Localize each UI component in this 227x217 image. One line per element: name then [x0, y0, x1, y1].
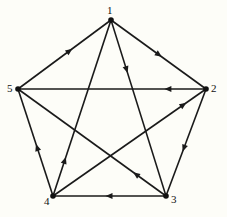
- node-4: [50, 193, 56, 199]
- edge-4-to-1: [53, 20, 111, 196]
- arrowhead-icon: [164, 86, 171, 92]
- node-2: [203, 86, 209, 92]
- arrowhead-icon: [180, 144, 188, 153]
- edge-2-to-3: [166, 89, 206, 196]
- arrowhead-icon: [61, 156, 69, 165]
- graph-canvas: [0, 0, 227, 217]
- arrowhead-icon: [123, 66, 131, 74]
- arrowhead-icon: [106, 193, 113, 199]
- node-3: [163, 193, 169, 199]
- edge-1-to-3: [111, 20, 166, 196]
- node-1: [108, 17, 114, 23]
- node-label-1: 1: [107, 5, 113, 16]
- node-label-3: 3: [171, 194, 177, 205]
- arrowhead-icon: [33, 143, 41, 152]
- edge-4-to-5: [18, 89, 53, 196]
- edge-5-to-1: [18, 20, 111, 89]
- node-label-4: 4: [44, 196, 50, 207]
- node-5: [15, 86, 21, 92]
- directed-graph-diagram: 12345: [0, 0, 227, 217]
- node-label-2: 2: [211, 83, 217, 94]
- edge-3-to-5: [18, 89, 166, 196]
- node-label-5: 5: [7, 83, 13, 94]
